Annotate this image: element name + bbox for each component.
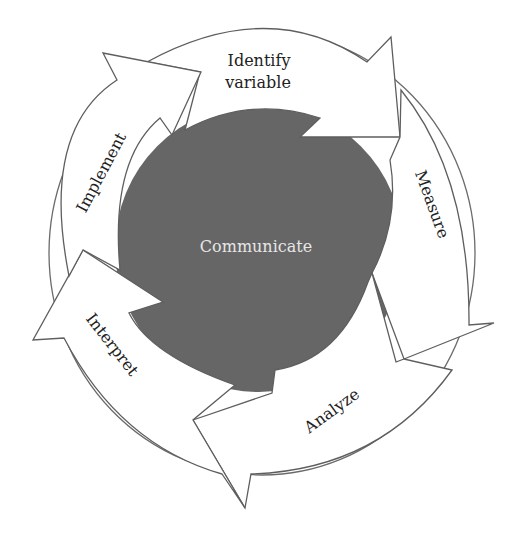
cycle-diagram: Identify variable Measure Analyze Interp… [0,0,531,537]
label-variable: variable [224,73,291,92]
center-label: Communicate [200,237,312,256]
label-identify: Identify [228,51,291,70]
